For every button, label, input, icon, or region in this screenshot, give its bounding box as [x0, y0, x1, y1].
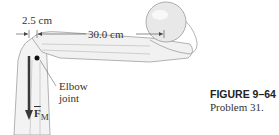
long-distance-label: 30.0 cm — [88, 28, 123, 40]
figure-caption-title: FIGURE 9–64 — [210, 88, 276, 100]
arm-diagram: 2.5 cm 30.0 cm Elbow joint FM FIGURE 9–6… — [0, 0, 279, 135]
force-label: FM — [34, 107, 49, 123]
figure-caption-subtitle: Problem 31. — [210, 101, 264, 113]
elbow-label-line1: Elbow — [59, 80, 88, 92]
force-symbol: F — [34, 107, 41, 119]
elbow-label-line2: joint — [59, 92, 79, 104]
ball — [146, 2, 186, 42]
elbow-pivot — [35, 56, 40, 61]
short-distance-label: 2.5 cm — [22, 14, 52, 26]
force-subscript: M — [41, 112, 49, 122]
